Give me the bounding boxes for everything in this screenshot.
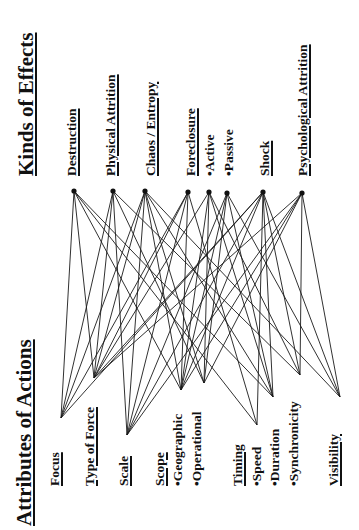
connection-nodes: [71, 188, 304, 195]
connection-lines: [61, 191, 340, 435]
effect-chaos-entropy: Chaos / Entropy: [144, 82, 158, 176]
node-psych: [299, 190, 304, 195]
node-passive: [224, 190, 229, 195]
effect-passive: •Passive: [222, 129, 236, 176]
effect-psychological-attrition: Psychological Attrition: [296, 44, 310, 176]
attribute-scope: Scope: [153, 452, 167, 486]
edge-psych-operational: [204, 193, 302, 383]
attribute-synchronicity: •Synchronicity: [287, 401, 301, 486]
edge-psych-geographic: [181, 193, 302, 390]
edge-psych-synchronicity: [300, 193, 302, 375]
node-chaos: [142, 188, 147, 193]
effect-physical-attrition: Physical Attrition: [104, 74, 118, 176]
edge-shock-synchronicity: [263, 192, 300, 375]
edge-shock-scale: [127, 192, 263, 435]
attribute-visibility: Visibility: [327, 434, 341, 486]
attribute-focus: Focus: [48, 452, 62, 486]
node-physical: [110, 188, 115, 193]
edge-active-force: [94, 192, 209, 378]
edge-physical-focus: [61, 191, 113, 418]
attribute-type-of-force: Type of Force: [83, 407, 97, 486]
edge-passive-geographic: [181, 193, 227, 390]
edge-physical-operational: [113, 191, 204, 383]
effect-destruction: Destruction: [65, 109, 79, 177]
attribute-scale: Scale: [117, 456, 131, 486]
effect-shock: Shock: [258, 141, 272, 176]
attribute-timing: Timing: [231, 444, 245, 486]
edge-destruction-focus: [61, 191, 74, 418]
edge-psych-visibility: [302, 193, 340, 397]
attribute-operational: •Operational: [190, 412, 204, 486]
edge-shock-speed: [257, 192, 263, 425]
edge-chaos-focus: [61, 191, 145, 418]
effect-foreclosure: Foreclosure: [184, 108, 198, 176]
node-destruction: [71, 188, 76, 193]
node-active: [206, 189, 211, 194]
effect-active: •Active: [203, 135, 217, 176]
edge-psych-scale: [127, 193, 302, 435]
node-shock: [260, 189, 265, 194]
attribute-speed: •Speed: [250, 447, 264, 486]
edge-chaos-duration: [145, 191, 273, 397]
attribute-geographic: •Geographic: [171, 414, 185, 486]
attributes-title: Attributes of Actions: [14, 339, 35, 526]
attribute-duration: •Duration: [268, 429, 282, 486]
node-foreclosure: [185, 189, 190, 194]
effects-title: Kinds of Effects: [16, 33, 37, 177]
